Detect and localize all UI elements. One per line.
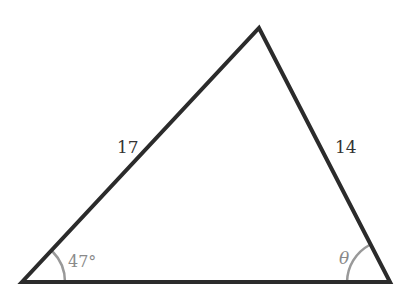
right-angle-arc xyxy=(347,245,370,282)
angle-label-right: θ xyxy=(339,248,349,268)
side-label-left: 17 xyxy=(117,137,139,157)
triangle-diagram: 17 14 47° θ xyxy=(0,0,414,301)
left-angle-arc xyxy=(53,252,66,283)
side-label-right: 14 xyxy=(335,137,357,157)
angle-label-left: 47° xyxy=(68,252,96,271)
